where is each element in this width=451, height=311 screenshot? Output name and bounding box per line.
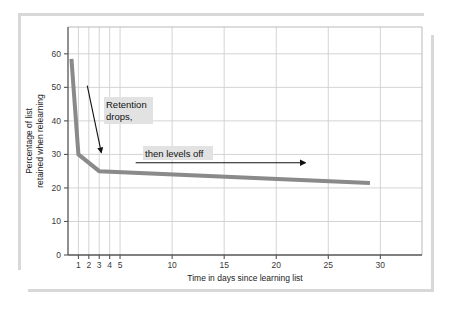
retention-drops-label-line1: Retention	[106, 99, 147, 110]
x-axis-ticks: 123451015202530	[76, 255, 385, 270]
y-axis-ticks: 0102030405060	[52, 49, 68, 260]
y-tick-label-60: 60	[52, 49, 62, 59]
then-levels-off-label: then levels off	[145, 148, 204, 159]
x-tick-label-1: 1	[76, 260, 81, 270]
forgetting-curve-chart: 0102030405060 123451015202530 Retention …	[0, 0, 451, 311]
x-tick-label-10: 10	[167, 260, 177, 270]
y-axis-title-line2: retained when relearning	[35, 94, 45, 188]
y-tick-label-20: 20	[52, 183, 62, 193]
x-tick-label-20: 20	[272, 260, 282, 270]
x-tick-label-3: 3	[97, 260, 102, 270]
x-tick-label-15: 15	[219, 260, 229, 270]
x-tick-label-30: 30	[376, 260, 386, 270]
x-tick-label-25: 25	[324, 260, 334, 270]
y-tick-label-0: 0	[56, 250, 61, 260]
y-axis-title-line1: Percentage of list	[24, 108, 34, 174]
y-tick-label-40: 40	[52, 116, 62, 126]
figure-root: 0102030405060 123451015202530 Retention …	[0, 0, 451, 311]
plot-area-background	[68, 27, 422, 255]
retention-drops-label-line2: drops,	[106, 111, 132, 122]
y-tick-label-30: 30	[52, 149, 62, 159]
x-tick-label-2: 2	[86, 260, 91, 270]
y-tick-label-50: 50	[52, 82, 62, 92]
x-axis-title: Time in days since learning list	[187, 273, 303, 283]
x-tick-label-4: 4	[107, 260, 112, 270]
y-tick-label-10: 10	[52, 216, 62, 226]
x-tick-label-5: 5	[118, 260, 123, 270]
